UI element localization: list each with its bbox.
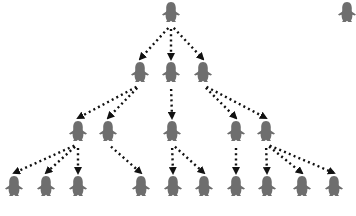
dotted-arrow-edge: [174, 28, 203, 59]
dotted-arrow-edge: [175, 147, 204, 173]
dotted-arrow-edge: [140, 28, 168, 59]
tree-node-penguin-icon: [37, 176, 55, 196]
tree-node-penguin-icon: [293, 176, 311, 196]
dotted-arrow-edge: [171, 89, 172, 118]
dotted-arrow-edge: [111, 147, 141, 173]
standalone-penguin-icon: [338, 2, 356, 22]
dotted-arrow-edge: [78, 87, 136, 118]
tree-node-penguin-icon: [69, 176, 87, 196]
tree-diagram-canvas: [0, 0, 356, 216]
dotted-arrow-edge: [108, 88, 137, 118]
tree-node-penguin-icon: [258, 176, 276, 196]
tree-node-penguin-icon: [69, 121, 87, 141]
tree-node-penguin-icon: [5, 176, 23, 196]
tree-node-penguin-icon: [325, 176, 343, 196]
tree-node-penguin-icon: [132, 176, 150, 196]
dotted-arrow-edge: [14, 146, 74, 173]
tree-node-penguin-icon: [227, 121, 245, 141]
dotted-arrow-edge: [172, 148, 173, 173]
tree-node-penguin-icon: [257, 121, 275, 141]
tree-node-penguin-icon: [194, 62, 212, 82]
tree-diagram: [0, 0, 356, 216]
dotted-arrow-edge: [46, 147, 75, 173]
nodes-layer: [5, 2, 356, 196]
tree-node-penguin-icon: [163, 121, 181, 141]
edges-layer: [14, 28, 334, 173]
dotted-arrow-edge: [206, 88, 236, 118]
tree-node-penguin-icon: [164, 176, 182, 196]
tree-node-penguin-icon: [99, 121, 117, 141]
dotted-arrow-edge: [270, 146, 334, 173]
tree-node-penguin-icon: [131, 62, 149, 82]
tree-node-penguin-icon: [195, 176, 213, 196]
dotted-arrow-edge: [266, 148, 267, 173]
tree-node-penguin-icon: [227, 176, 245, 196]
dotted-arrow-edge: [269, 147, 302, 173]
tree-node-penguin-icon: [162, 2, 180, 22]
tree-node-penguin-icon: [162, 62, 180, 82]
dotted-arrow-edge: [207, 87, 266, 118]
